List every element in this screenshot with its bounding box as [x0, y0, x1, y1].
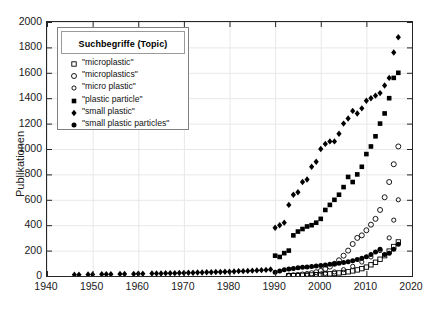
legend-item[interactable]: "plastic particle": [58, 93, 188, 105]
y-tick-label: 1200: [2, 118, 42, 128]
x-tick-label: 1940: [26, 281, 66, 291]
y-tick-label: 600: [2, 194, 42, 204]
publications-scatter-chart: Publikationen 02004006008001000120014001…: [0, 0, 426, 311]
legend-item-label: "small plastic": [82, 106, 135, 116]
y-tick-label: 200: [2, 245, 42, 255]
legend-item-label: "plastic particle": [82, 94, 143, 104]
legend-item-label: "microplastic": [82, 57, 133, 67]
x-tick-label: 1960: [117, 281, 157, 291]
y-axis-title: Publikationen: [14, 131, 26, 197]
legend-item[interactable]: "micro plastic": [58, 80, 188, 92]
y-tick-label: 800: [2, 168, 42, 178]
x-tick-label: 2020: [391, 281, 426, 291]
legend-item-label: "microplastics": [82, 69, 138, 79]
x-tick-label: 1990: [254, 281, 294, 291]
legend-item-label: "micro plastic": [82, 81, 136, 91]
y-tick-label: 1400: [2, 92, 42, 102]
open-circle-small-icon: [67, 80, 81, 92]
legend: Suchbegriffe (Topic) "microplastic""micr…: [57, 27, 189, 130]
filled-circle-icon: [67, 117, 81, 129]
open-circle-icon: [67, 68, 81, 80]
x-tick-label: 2000: [300, 281, 340, 291]
x-tick-label: 1950: [72, 281, 112, 291]
legend-entries: "microplastic""microplastics""micro plas…: [58, 56, 188, 129]
legend-item-label: "small plastic particles": [82, 118, 169, 128]
x-tick-label: 1980: [209, 281, 249, 291]
y-tick-label: 0: [2, 270, 42, 280]
y-tick-label: 400: [2, 219, 42, 229]
y-tick-label: 2000: [2, 16, 42, 26]
legend-item[interactable]: "small plastic": [58, 105, 188, 117]
open-square-icon: [67, 56, 81, 68]
legend-item[interactable]: "microplastics": [58, 68, 188, 80]
y-tick-label: 1600: [2, 67, 42, 77]
x-tick-label: 2010: [345, 281, 385, 291]
y-tick-label: 1000: [2, 143, 42, 153]
x-tick-label: 1970: [163, 281, 203, 291]
legend-title-box: Suchbegriffe (Topic): [61, 31, 185, 54]
filled-diamond-icon: [67, 105, 81, 117]
legend-item[interactable]: "microplastic": [58, 56, 188, 68]
filled-square-icon: [67, 93, 81, 105]
legend-item[interactable]: "small plastic particles": [58, 117, 188, 129]
y-tick-label: 1800: [2, 41, 42, 51]
legend-title: Suchbegriffe (Topic): [79, 39, 168, 49]
